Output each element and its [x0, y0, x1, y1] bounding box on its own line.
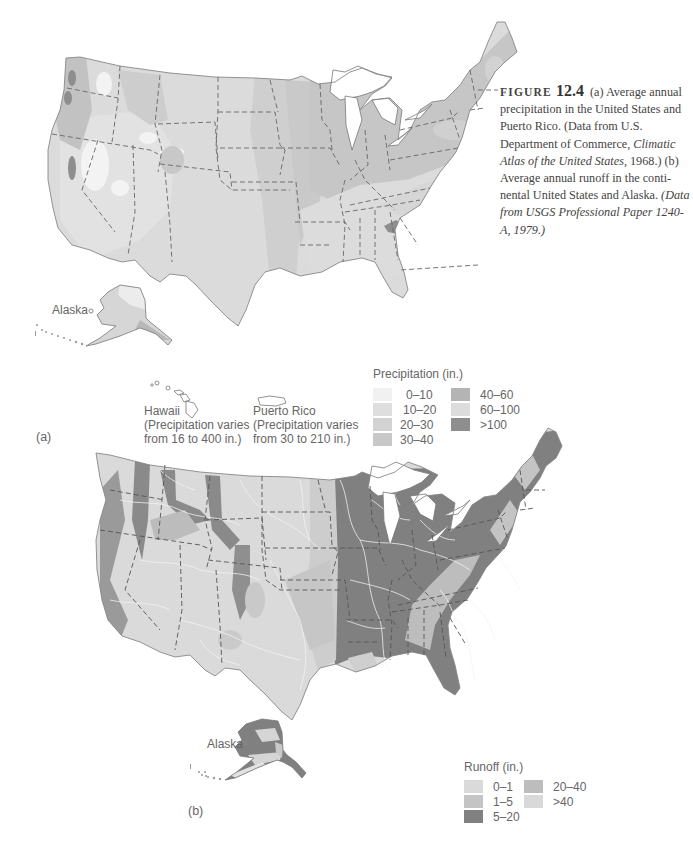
legend-item-60-100: 60–100: [451, 402, 520, 417]
swatch-20-30: [373, 418, 392, 431]
hawaii-note-2: from 16 to 400 in.): [144, 432, 249, 446]
hawaii-label: Hawaii (Precipitation varies from 16 to …: [144, 404, 249, 446]
figure-word: FIGURE: [500, 86, 552, 98]
swatch-0-1: [464, 780, 483, 793]
swatch-20-40: [524, 780, 543, 793]
precipitation-legend: Precipitation (in.) 0–10 10–20 20–30 30–…: [373, 367, 520, 447]
legend-item-0-1: 0–1: [464, 779, 524, 794]
swatch-0-10: [373, 388, 392, 401]
legend-item-20-40: 20–40: [524, 779, 586, 794]
swatch-5-20: [464, 810, 483, 823]
figure-caption: FIGURE12.4 (a) Average annual precipitat…: [500, 82, 690, 239]
alaska-label-b: Alaska: [207, 737, 243, 751]
runoff-legend: Runoff (in.) 0–1 1–5 5–20 20–40 >4: [464, 760, 586, 824]
legend-item-1-5: 1–5: [464, 794, 524, 809]
runoff-legend-title: Runoff (in.): [464, 760, 586, 774]
legend-item-10-20: 10–20: [373, 402, 439, 417]
legend-item-20-30: 20–30: [373, 417, 439, 432]
puerto-rico-note-2: from 30 to 210 in.): [253, 432, 358, 446]
swatch-40-60: [451, 388, 470, 401]
alaska-label-a: Alaska: [52, 303, 88, 317]
swatch-60-100: [451, 403, 470, 416]
hawaii-note-1: (Precipitation varies: [144, 418, 249, 432]
swatch-over-100: [451, 418, 470, 431]
swatch-over-40: [524, 795, 543, 808]
legend-item-30-40: 30–40: [373, 432, 439, 447]
legend-item-over-100: >100: [451, 417, 520, 432]
puerto-rico-note-1: (Precipitation varies: [253, 418, 358, 432]
legend-item-0-10: 0–10: [373, 387, 439, 402]
puerto-rico-label: Puerto Rico (Precipitation varies from 3…: [253, 404, 358, 446]
panel-label-a: (a): [36, 430, 51, 444]
puerto-rico-name: Puerto Rico: [253, 404, 358, 418]
swatch-30-40: [373, 433, 392, 446]
precipitation-legend-title: Precipitation (in.): [373, 367, 520, 381]
legend-item-40-60: 40–60: [451, 387, 520, 402]
legend-item-5-20: 5–20: [464, 809, 524, 824]
legend-item-over-40: >40: [524, 794, 586, 809]
figure-number: 12.4: [556, 82, 584, 99]
swatch-1-5: [464, 795, 483, 808]
panel-label-b: (b): [188, 804, 203, 818]
swatch-10-20: [373, 403, 392, 416]
hawaii-name: Hawaii: [144, 404, 249, 418]
